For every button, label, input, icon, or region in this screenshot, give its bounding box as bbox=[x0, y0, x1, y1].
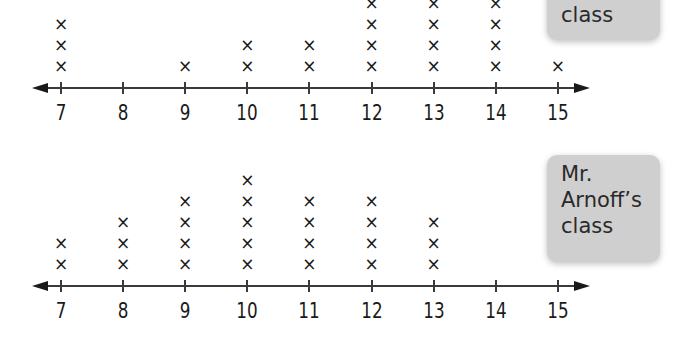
x-mark: × bbox=[424, 234, 444, 252]
tick-label: 8 bbox=[107, 299, 139, 323]
x-mark: × bbox=[175, 234, 195, 252]
tick-label: 14 bbox=[480, 299, 512, 323]
tick-mark bbox=[495, 280, 497, 292]
x-mark: × bbox=[362, 234, 382, 252]
x-mark: × bbox=[51, 255, 71, 273]
tick-mark bbox=[371, 280, 373, 292]
tick-label: 12 bbox=[356, 299, 388, 323]
x-mark: × bbox=[299, 213, 319, 231]
tick-label: 10 bbox=[231, 299, 263, 323]
x-mark: × bbox=[237, 234, 257, 252]
x-mark: × bbox=[237, 255, 257, 273]
x-mark: × bbox=[237, 213, 257, 231]
x-mark: × bbox=[362, 192, 382, 210]
tick-label: 9 bbox=[169, 299, 201, 323]
tick-mark bbox=[246, 280, 248, 292]
x-mark: × bbox=[424, 255, 444, 273]
x-mark: × bbox=[113, 234, 133, 252]
arrow-right-icon bbox=[574, 281, 590, 291]
x-mark: × bbox=[299, 234, 319, 252]
tick-mark bbox=[308, 280, 310, 292]
x-mark: × bbox=[51, 234, 71, 252]
x-mark: × bbox=[299, 192, 319, 210]
tick-mark bbox=[557, 280, 559, 292]
class-label-top: class bbox=[547, 0, 660, 40]
x-mark: × bbox=[362, 255, 382, 273]
label-line: class bbox=[561, 2, 660, 28]
x-mark: × bbox=[237, 192, 257, 210]
x-mark: × bbox=[113, 255, 133, 273]
tick-label: 11 bbox=[293, 299, 325, 323]
tick-label: 13 bbox=[418, 299, 450, 323]
x-mark: × bbox=[424, 213, 444, 231]
tick-label: 7 bbox=[45, 299, 77, 323]
tick-mark bbox=[184, 280, 186, 292]
x-mark: × bbox=[299, 255, 319, 273]
class-label-arnoff: Mr. Arnoff’s class bbox=[547, 155, 660, 262]
tick-mark bbox=[433, 280, 435, 292]
tick-mark bbox=[60, 280, 62, 292]
tick-mark bbox=[122, 280, 124, 292]
label-line: Arnoff’s bbox=[561, 187, 660, 213]
x-mark: × bbox=[237, 171, 257, 189]
x-mark: × bbox=[175, 213, 195, 231]
x-mark: × bbox=[175, 192, 195, 210]
label-line: class bbox=[561, 213, 660, 239]
arrow-left-icon bbox=[32, 281, 48, 291]
x-mark: × bbox=[175, 255, 195, 273]
x-mark: × bbox=[362, 213, 382, 231]
tick-label: 15 bbox=[542, 299, 574, 323]
x-mark: × bbox=[113, 213, 133, 231]
label-line: Mr. bbox=[561, 161, 660, 187]
